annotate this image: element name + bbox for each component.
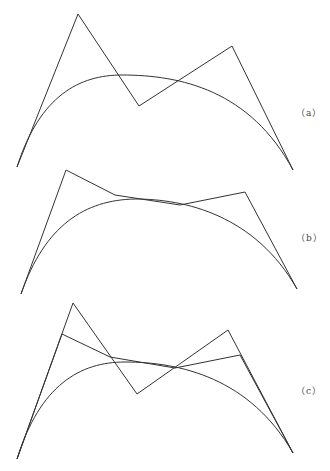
inner-polygon-c — [17, 334, 293, 459]
figure-label-b: （b） — [296, 231, 323, 244]
bezier-diagram — [0, 0, 330, 471]
control-polygon-c — [17, 303, 293, 459]
figure-c — [17, 303, 293, 459]
control-polygon-a — [17, 14, 293, 170]
figure-label-c: （c） — [296, 384, 322, 397]
bezier-curve-a — [17, 75, 293, 170]
bezier-curve-b — [21, 199, 297, 294]
figure-b — [21, 170, 297, 294]
figure-a — [17, 14, 293, 170]
control-polygon-b — [21, 170, 297, 294]
figure-label-a: （a） — [296, 106, 322, 119]
